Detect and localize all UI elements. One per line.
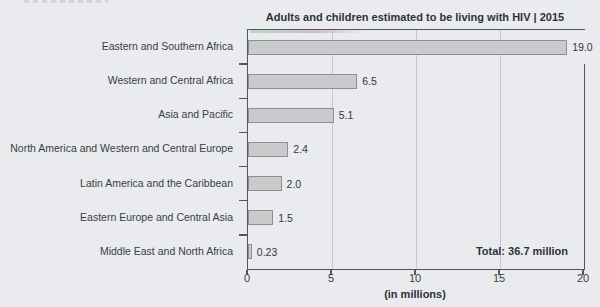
bar-value-label: 2.0 bbox=[285, 167, 304, 201]
gridline-15 bbox=[500, 30, 501, 269]
bar-value-label: 6.5 bbox=[360, 64, 379, 98]
bar bbox=[248, 244, 252, 259]
gridline-10 bbox=[416, 30, 417, 269]
bar bbox=[248, 176, 282, 191]
bar-value-label: 1.5 bbox=[276, 201, 295, 235]
chart-title: Adults and children estimated to be livi… bbox=[247, 11, 583, 23]
category-label: Eastern Europe and Central Asia bbox=[0, 200, 240, 234]
bar-value-label: 2.4 bbox=[291, 132, 310, 166]
bar bbox=[248, 40, 567, 55]
x-axis-title: (in millions) bbox=[247, 288, 583, 300]
total-annotation: Total: 36.7 million bbox=[476, 245, 568, 257]
bar bbox=[248, 74, 357, 89]
plot-area: 19.06.55.12.42.01.50.23 Total: 36.7 mill… bbox=[247, 29, 585, 270]
category-label: Asia and Pacific bbox=[0, 97, 240, 131]
bar bbox=[248, 210, 273, 225]
bar-value-label: 19.0 bbox=[570, 30, 594, 64]
cropped-print-text-artifact bbox=[24, 0, 108, 3]
scan-color-sheen bbox=[250, 30, 368, 33]
bar-value-label: 0.23 bbox=[255, 235, 279, 269]
category-label: Middle East and North Africa bbox=[0, 234, 240, 268]
category-label: Western and Central Africa bbox=[0, 63, 240, 97]
x-axis-tick-label: 15 bbox=[484, 272, 514, 284]
x-axis-tick-label: 0 bbox=[232, 272, 262, 284]
bar bbox=[248, 108, 334, 123]
x-axis-tick-label: 5 bbox=[316, 272, 346, 284]
gridline-5 bbox=[332, 30, 333, 269]
category-label: Latin America and the Caribbean bbox=[0, 166, 240, 200]
scanned-chart-page: Adults and children estimated to be livi… bbox=[0, 0, 600, 307]
category-label: Eastern and Southern Africa bbox=[0, 29, 240, 63]
x-axis-tick-label: 10 bbox=[400, 272, 430, 284]
bar bbox=[248, 142, 288, 157]
bar-value-label: 5.1 bbox=[337, 98, 356, 132]
category-label: North America and Western and Central Eu… bbox=[0, 131, 240, 165]
x-axis-tick-label: 20 bbox=[568, 272, 598, 284]
